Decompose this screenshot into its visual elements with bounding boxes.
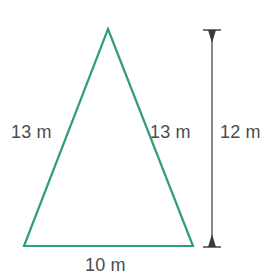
geometry-figure: 13 m 13 m 12 m 10 m (0, 0, 270, 280)
label-right-side: 13 m (150, 123, 191, 141)
arrowhead-up-icon (208, 234, 216, 247)
label-base: 10 m (85, 256, 126, 274)
label-height: 12 m (220, 123, 261, 141)
height-dimension-group (203, 30, 221, 247)
arrowhead-down-icon (208, 30, 216, 43)
label-left-side: 13 m (11, 123, 52, 141)
